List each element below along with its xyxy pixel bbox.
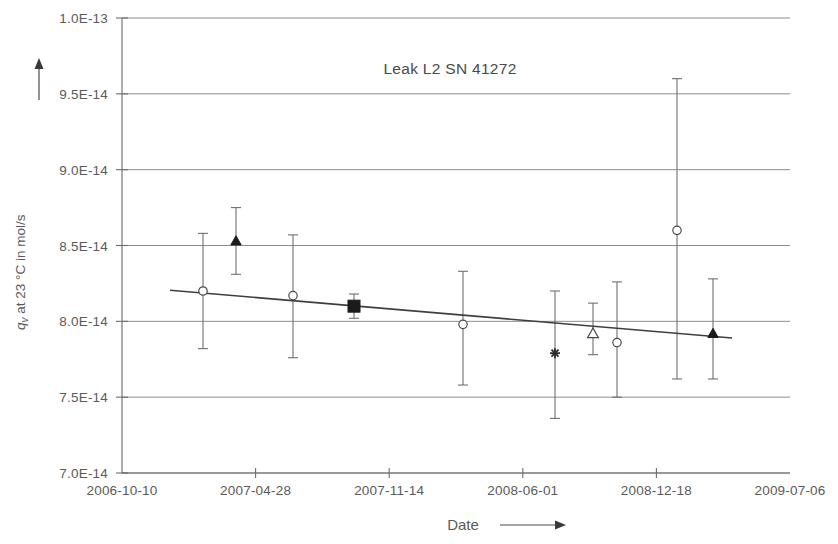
y-tick-label: 7.0E-14 — [59, 466, 108, 481]
chart-title: Leak L2 SN 41272 — [383, 60, 516, 77]
y-tick-label: 9.5E-14 — [59, 87, 108, 102]
data-point-marker-open-circle — [289, 291, 297, 299]
tick-marks-group — [116, 18, 656, 478]
trend-line — [170, 290, 732, 338]
y-tick-label: 9.0E-14 — [59, 163, 108, 178]
y-tick-label: 1.0E-13 — [59, 11, 108, 26]
data-point-marker-open-circle — [199, 287, 207, 295]
x-tick-label: 2007-04-28 — [220, 483, 291, 498]
x-tick-label: 2008-12-18 — [621, 483, 692, 498]
x-tick-label: 2008-06-01 — [487, 483, 558, 498]
svg-text:qv at 23 °C in mol/s: qv at 23 °C in mol/s — [13, 214, 30, 330]
x-axis-title: Date — [447, 516, 479, 533]
y-axis-direction-arrow-icon — [35, 58, 44, 100]
data-point-marker-open-circle — [673, 226, 681, 234]
y-tick-label: 8.5E-14 — [59, 239, 108, 254]
data-point-marker-open-circle — [459, 320, 467, 328]
y-tick-label: 7.5E-14 — [59, 390, 108, 405]
data-point-marker-filled-triangle — [231, 236, 241, 245]
error-bars-group — [198, 79, 718, 419]
gridlines-group — [122, 18, 790, 473]
y-tick-labels-group: 1.0E-139.5E-149.0E-148.5E-148.0E-147.5E-… — [59, 11, 108, 481]
x-tick-labels-group: 2006-10-102007-04-282007-11-142008-06-01… — [86, 483, 825, 498]
y-tick-label: 8.0E-14 — [59, 314, 108, 329]
x-axis-direction-arrow-icon — [500, 521, 566, 530]
data-point-marker-filled-triangle — [708, 328, 718, 337]
trend-line-group — [170, 290, 732, 338]
x-tick-label: 2006-10-10 — [86, 483, 157, 498]
data-point-marker-open-circle — [613, 338, 621, 346]
chart-plot-area: 1.0E-139.5E-149.0E-148.5E-148.0E-147.5E-… — [0, 0, 838, 544]
chart-figure: 1.0E-139.5E-149.0E-148.5E-148.0E-147.5E-… — [0, 0, 838, 544]
x-tick-label: 2007-11-14 — [354, 483, 424, 498]
data-point-marker-asterisk — [550, 348, 560, 358]
x-tick-label: 2009-07-06 — [754, 483, 825, 498]
data-point-marker-filled-square — [348, 300, 360, 312]
y-axis-title: qv at 23 °C in mol/s — [13, 214, 30, 330]
data-point-marker-open-triangle — [588, 328, 599, 338]
